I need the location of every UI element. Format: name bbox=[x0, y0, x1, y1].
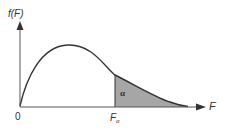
alpha-tail-area bbox=[115, 75, 188, 107]
density-curve bbox=[20, 45, 188, 107]
y-axis-arrow-icon bbox=[17, 21, 24, 30]
x-axis-label: F bbox=[209, 101, 216, 112]
f-distribution-diagram: f(F) F 0 Fα α bbox=[0, 0, 229, 131]
origin-label: 0 bbox=[15, 112, 21, 122]
y-axis-label: f(F) bbox=[8, 9, 24, 19]
critical-value-label: Fα bbox=[110, 113, 120, 124]
x-axis-arrow-icon bbox=[196, 104, 206, 111]
critical-value-subscript: α bbox=[116, 118, 119, 124]
alpha-area-label: α bbox=[120, 89, 125, 98]
